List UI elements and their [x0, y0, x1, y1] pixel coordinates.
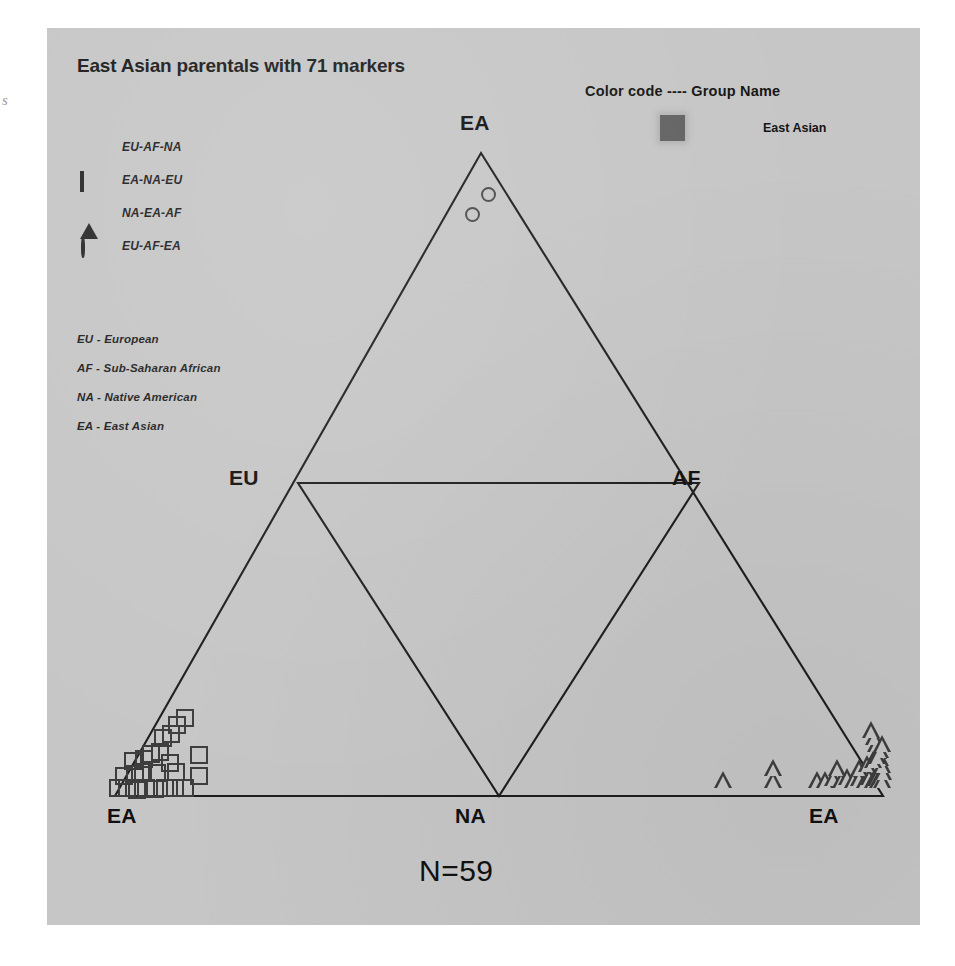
vertex-label-ea-top: EA: [460, 111, 490, 135]
page-margin-note: s: [2, 92, 8, 109]
triangle-plot: EA EU AF EA NA EA N=59: [47, 28, 920, 925]
vertex-label-na: NA: [455, 804, 486, 828]
vertex-label-ea-bottom-left: EA: [107, 804, 137, 828]
triangle-axes-svg: [47, 28, 920, 925]
vertex-label-eu: EU: [229, 466, 259, 490]
vertex-label-ea-bottom-right: EA: [809, 804, 839, 828]
sample-size-caption: N=59: [419, 854, 494, 888]
screenshot-root: s East Asian parentals with 71 markers E…: [0, 0, 955, 966]
chart-panel: East Asian parentals with 71 markers EU-…: [47, 28, 920, 925]
vertex-label-af: AF: [672, 466, 701, 490]
